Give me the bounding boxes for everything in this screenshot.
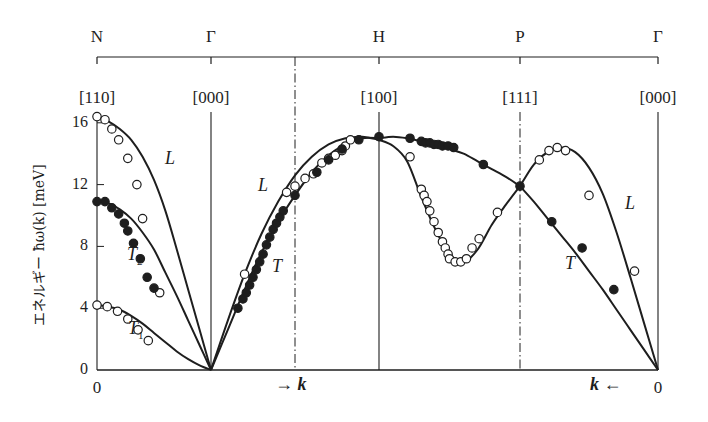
symmetry-point-label: P bbox=[515, 27, 524, 47]
open-data-point bbox=[630, 267, 638, 275]
filled-data-point bbox=[262, 241, 270, 249]
open-data-point bbox=[114, 136, 122, 144]
open-data-point bbox=[133, 180, 141, 188]
filled-data-point bbox=[249, 273, 257, 281]
branch-label: L bbox=[165, 148, 175, 169]
filled-data-point bbox=[355, 136, 363, 144]
open-data-point bbox=[240, 270, 248, 278]
filled-data-point bbox=[610, 285, 618, 293]
branch-label: T1 bbox=[128, 318, 144, 341]
open-data-point bbox=[423, 197, 431, 205]
k-direction-label: k ← bbox=[590, 374, 622, 395]
open-data-point bbox=[426, 207, 434, 215]
filled-data-point bbox=[114, 210, 122, 218]
k-direction-label: → k bbox=[275, 374, 307, 395]
filled-data-point bbox=[291, 191, 299, 199]
open-data-point bbox=[124, 154, 132, 162]
open-data-point bbox=[282, 188, 290, 196]
symmetry-point-label: Γ bbox=[206, 27, 216, 47]
open-data-point bbox=[468, 244, 476, 252]
open-data-point bbox=[545, 146, 553, 154]
open-data-point bbox=[434, 228, 442, 236]
open-data-point bbox=[138, 214, 146, 222]
filled-data-point bbox=[279, 207, 287, 215]
filled-data-point bbox=[234, 304, 242, 312]
y-tick-label: 16 bbox=[58, 113, 88, 131]
filled-data-point bbox=[150, 284, 158, 292]
miller-index-label: [000] bbox=[640, 88, 677, 108]
y-tick-label: 12 bbox=[58, 175, 88, 193]
filled-data-point bbox=[578, 244, 586, 252]
filled-data-point bbox=[101, 197, 109, 205]
filled-data-point bbox=[516, 182, 524, 190]
filled-data-point bbox=[120, 219, 128, 227]
open-data-point bbox=[291, 182, 299, 190]
open-data-point bbox=[561, 146, 569, 154]
filled-data-point bbox=[242, 289, 250, 297]
open-data-point bbox=[93, 301, 101, 309]
open-data-point bbox=[101, 116, 109, 124]
symmetry-point-label: N bbox=[91, 27, 103, 47]
dispersion-curve bbox=[211, 137, 379, 370]
miller-index-label: [100] bbox=[361, 88, 398, 108]
dispersion-curve bbox=[97, 305, 211, 370]
miller-index-label: [000] bbox=[193, 88, 230, 108]
open-data-point bbox=[535, 156, 543, 164]
filled-data-point bbox=[406, 134, 414, 142]
filled-data-point bbox=[256, 258, 264, 266]
open-data-point bbox=[113, 307, 121, 315]
dispersion-curve bbox=[520, 148, 658, 370]
filled-data-point bbox=[93, 197, 101, 205]
dispersion-curve bbox=[520, 186, 658, 370]
y-tick-label: 0 bbox=[58, 360, 88, 378]
open-data-point bbox=[346, 136, 354, 144]
open-data-point bbox=[430, 217, 438, 225]
miller-index-label: [111] bbox=[502, 88, 538, 108]
open-data-point bbox=[108, 125, 116, 133]
filled-data-point bbox=[252, 265, 260, 273]
branch-label: L bbox=[258, 175, 268, 196]
x-origin-label: 0 bbox=[654, 378, 663, 398]
branch-label: L bbox=[625, 193, 635, 214]
open-data-point bbox=[93, 112, 101, 120]
phonon-dispersion-chart bbox=[0, 0, 708, 422]
open-data-point bbox=[103, 302, 111, 310]
filled-data-point bbox=[479, 160, 487, 168]
filled-data-point bbox=[313, 168, 321, 176]
open-data-point bbox=[462, 255, 470, 263]
symmetry-point-label: Γ bbox=[653, 27, 663, 47]
filled-data-point bbox=[108, 204, 116, 212]
filled-data-point bbox=[375, 133, 383, 141]
filled-data-point bbox=[450, 143, 458, 151]
branch-label: T2 bbox=[127, 244, 143, 267]
filled-data-point bbox=[259, 250, 267, 258]
filled-data-point bbox=[324, 156, 332, 164]
x-origin-label: 0 bbox=[93, 378, 102, 398]
open-data-point bbox=[475, 234, 483, 242]
symmetry-point-label: H bbox=[373, 27, 385, 47]
open-data-point bbox=[585, 191, 593, 199]
filled-data-point bbox=[245, 281, 253, 289]
open-data-point bbox=[144, 336, 152, 344]
open-data-point bbox=[406, 153, 414, 161]
dispersion-curves bbox=[97, 117, 658, 370]
branch-label: T bbox=[272, 256, 282, 277]
dispersion-curve bbox=[379, 140, 520, 262]
y-tick-label: 4 bbox=[58, 298, 88, 316]
y-axis-label: エネルギー ħω(k) [meV] bbox=[28, 164, 48, 325]
miller-index-label: [110] bbox=[79, 88, 115, 108]
open-data-point bbox=[493, 208, 501, 216]
filled-data-point bbox=[266, 233, 274, 241]
branch-label: T bbox=[565, 253, 575, 274]
filled-data-point bbox=[338, 145, 346, 153]
filled-data-point bbox=[143, 273, 151, 281]
y-tick-label: 8 bbox=[58, 236, 88, 254]
open-data-point bbox=[301, 174, 309, 182]
open-data-point bbox=[553, 143, 561, 151]
filled-data-point bbox=[124, 227, 132, 235]
filled-data-point bbox=[548, 217, 556, 225]
